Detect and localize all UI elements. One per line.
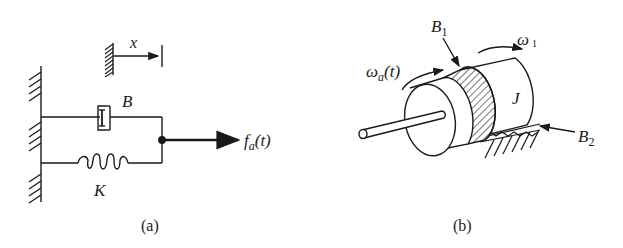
spring	[41, 154, 162, 169]
diagram-canvas: x B K fa(t) (a)	[0, 0, 623, 248]
b1-pointer	[443, 38, 459, 66]
caption-a: (a)	[141, 217, 159, 235]
damper-label: B	[122, 92, 133, 111]
output-speed-label: ω1	[517, 30, 537, 49]
figure-b	[359, 38, 575, 160]
fixed-wall	[29, 66, 41, 203]
output-rotation-arrow	[478, 47, 522, 53]
damper	[41, 106, 162, 130]
input-speed-label: ωa(t)	[366, 62, 400, 84]
displacement-label: x	[129, 34, 137, 51]
friction-b1-label: B1	[431, 17, 447, 39]
force-label: fa(t)	[244, 131, 271, 153]
figure-a	[29, 43, 238, 203]
spring-label: K	[93, 181, 107, 200]
friction-b2-label: B2	[578, 127, 594, 149]
b2-pointer	[540, 126, 575, 132]
caption-b: (b)	[453, 217, 472, 235]
